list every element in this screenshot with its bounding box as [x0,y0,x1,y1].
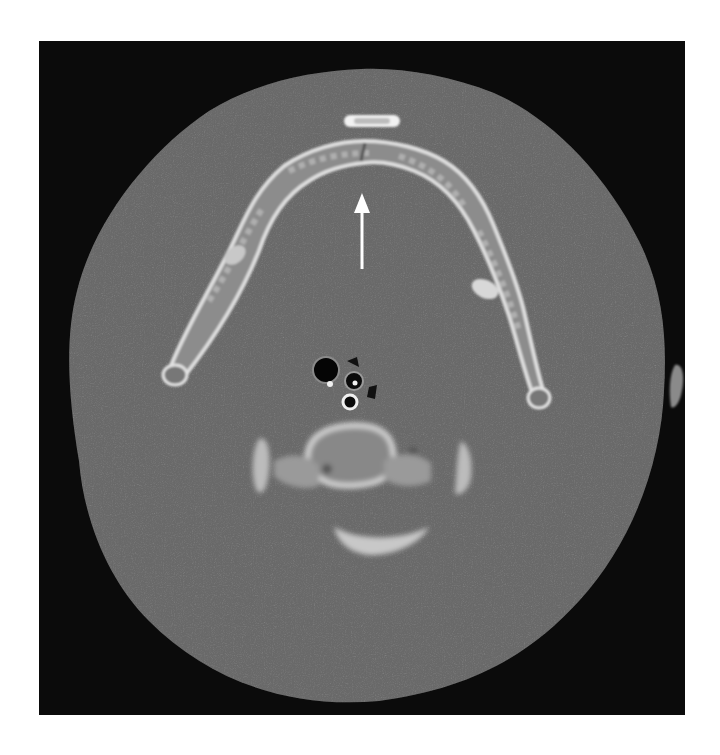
dental-appliance [344,115,400,127]
ear-lobe [670,365,683,408]
ct-axial-slice [39,41,685,715]
ct-image-frame [39,41,685,715]
